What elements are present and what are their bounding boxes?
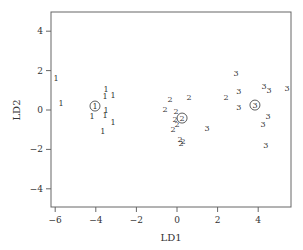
- lda-scatter-chart: −6−4−2024 −4−2024 1111111111122222222222…: [0, 0, 303, 250]
- centroid-label-group-1: 1: [92, 102, 97, 111]
- y-axis: −4−2024: [30, 26, 51, 194]
- data-point-group-2: 2: [186, 93, 191, 102]
- data-point-group-1: 1: [111, 91, 116, 100]
- data-point-group-1: 1: [102, 111, 107, 120]
- x-tick-label: 2: [215, 215, 221, 225]
- data-point-group-1: 1: [102, 92, 107, 101]
- data-point-group-1: 1: [100, 127, 105, 136]
- data-point-group-2: 2: [170, 125, 175, 134]
- x-tick-label: −2: [130, 215, 143, 225]
- data-point-group-1: 1: [53, 74, 58, 83]
- x-tick-label: −6: [49, 215, 63, 225]
- data-point-group-3: 3: [236, 87, 241, 96]
- y-tick-label: 0: [37, 105, 43, 115]
- data-points: 1111111111122222222222233333333333: [53, 69, 289, 150]
- x-tick-label: 4: [255, 215, 261, 225]
- x-axis: −6−4−2024: [49, 207, 262, 225]
- data-point-group-3: 3: [284, 84, 289, 93]
- data-point-group-3: 3: [204, 124, 209, 133]
- data-point-group-2: 2: [179, 139, 184, 148]
- data-point-group-3: 3: [234, 69, 239, 78]
- x-tick-label: 0: [174, 215, 180, 225]
- x-axis-title: LD1: [160, 232, 181, 243]
- data-point-group-3: 3: [236, 103, 241, 112]
- centroid-label-group-3: 3: [252, 101, 257, 110]
- data-point-group-1: 1: [111, 118, 116, 127]
- y-tick-label: 2: [37, 66, 43, 76]
- y-axis-title: LD2: [11, 99, 22, 120]
- y-tick-label: −4: [30, 184, 44, 194]
- data-point-group-2: 2: [168, 95, 173, 104]
- data-point-group-1: 1: [59, 99, 64, 108]
- y-tick-label: −2: [30, 144, 43, 154]
- data-point-group-3: 3: [261, 120, 266, 129]
- data-point-group-3: 3: [263, 141, 268, 150]
- centroid-label-group-2: 2: [180, 114, 185, 123]
- data-point-group-2: 2: [162, 105, 167, 114]
- data-point-group-2: 2: [223, 93, 228, 102]
- data-point-group-3: 3: [266, 86, 271, 95]
- y-tick-label: 4: [37, 26, 43, 36]
- data-point-group-1: 1: [89, 112, 94, 121]
- x-tick-label: −4: [89, 215, 103, 225]
- data-point-group-3: 3: [265, 112, 270, 121]
